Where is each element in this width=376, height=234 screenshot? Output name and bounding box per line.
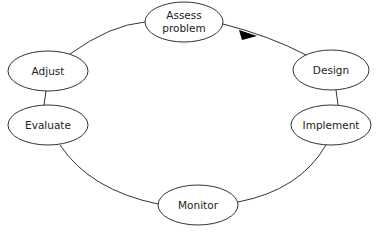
- node-label: Evaluate: [25, 119, 71, 131]
- node-evaluate: Evaluate: [8, 105, 88, 145]
- node-assess: Assess problem: [145, 2, 223, 42]
- node-monitor: Monitor: [158, 185, 238, 225]
- node-label: Design: [313, 64, 349, 76]
- cycle-diagram: Assess problem Design Implement Monitor …: [0, 0, 376, 234]
- node-label: Monitor: [178, 199, 219, 211]
- node-adjust: Adjust: [8, 51, 88, 91]
- node-label: Implement: [303, 119, 360, 131]
- cycle-connectors: [44, 22, 338, 204]
- node-implement: Implement: [291, 105, 371, 145]
- node-label: Adjust: [32, 65, 65, 77]
- node-label: Assess: [166, 9, 202, 21]
- node-design: Design: [293, 50, 369, 90]
- node-label: problem: [162, 22, 205, 34]
